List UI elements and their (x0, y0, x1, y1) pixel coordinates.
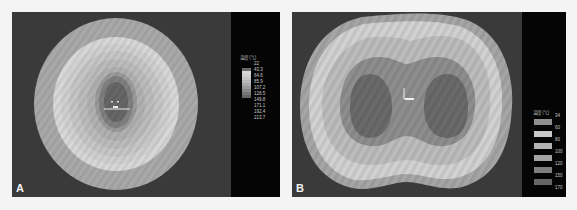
legend-a-value: 171.1 (254, 103, 265, 108)
panel-label-a: A (16, 182, 24, 194)
legend-b-value: 60 (555, 125, 560, 130)
legend-a-title: 温度 (℃) (240, 54, 256, 60)
legend-a-value: 43.3 (254, 67, 263, 72)
legend-b-swatch (534, 155, 552, 161)
legend-a-value: 22 (254, 61, 259, 66)
legend-a-value: 128.5 (254, 91, 265, 96)
legend-b-title: 温度 (℃) (533, 109, 549, 115)
legend-b-value: 100 (555, 149, 563, 154)
legend-b-swatch (534, 131, 552, 137)
legend-b-value: 120 (555, 161, 563, 166)
legend-b: 温度 (℃) 34 60 80 100 120 150 170 (522, 12, 566, 197)
legend-a: 温度 (℃) 22 43.3 64.6 85.9 107.2 128.5 149… (231, 12, 280, 197)
legend-a-value: 85.9 (254, 79, 263, 84)
legend-a-value: 149.8 (254, 97, 265, 102)
legend-b-value: 34 (555, 113, 560, 118)
legend-b-swatch (534, 167, 552, 173)
legend-b-value: 170 (555, 185, 563, 190)
panel-b-contour-plot: B (292, 12, 522, 197)
legend-b-value: 80 (555, 137, 560, 142)
peanut-contour-graphic (292, 12, 522, 197)
legend-a-value: 107.2 (254, 85, 265, 90)
legend-b-value: 150 (555, 173, 563, 178)
panel-label-b: B (296, 182, 304, 194)
legend-a-value: 213.7 (254, 115, 265, 120)
legend-a-swatch (242, 95, 251, 98)
panel-a-contour-plot: A (12, 12, 231, 197)
legend-a-value: 64.6 (254, 73, 263, 78)
legend-b-swatch (534, 179, 552, 185)
ellipse-contour-graphic (12, 12, 231, 197)
legend-b-swatch (534, 119, 552, 125)
legend-b-swatch (534, 143, 552, 149)
legend-a-value: 192.4 (254, 109, 265, 114)
